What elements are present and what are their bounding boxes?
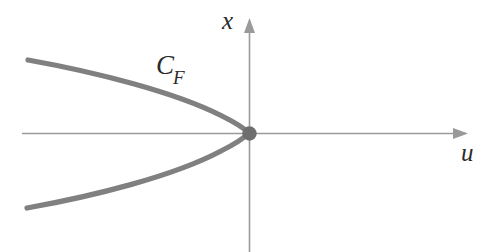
origin-point-marker	[242, 126, 256, 140]
figure-container: x u CF	[0, 0, 501, 252]
arrow-right-icon	[453, 128, 468, 139]
curve-label: CF	[156, 52, 186, 83]
curve-label-subscript: F	[173, 67, 185, 88]
horizontal-axis-label: u	[461, 140, 474, 165]
vertical-axis-label: x	[222, 8, 233, 33]
arrow-up-icon	[244, 18, 255, 33]
curve-label-main: C	[156, 50, 174, 80]
curve-upper-branch	[28, 60, 249, 133]
curve-lower-branch	[27, 133, 249, 208]
parabola-figure	[0, 0, 501, 252]
